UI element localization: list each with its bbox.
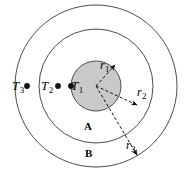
temperature-label-t3: T3 [12, 79, 24, 95]
radius-label-r1: r1 [100, 59, 110, 74]
concentric-circles-diagram: T3 T2 T1 r1 r2 r3 A B [0, 0, 189, 178]
radius-label-r2: r2 [137, 86, 147, 101]
radius-label-r3: r3 [126, 139, 136, 154]
temperature-label-t1: T1 [71, 79, 83, 95]
temperature-label-t2: T2 [41, 79, 53, 95]
region-label-b: B [85, 148, 92, 159]
temperature-dot-t2 [55, 83, 61, 89]
temperature-dot-t3 [24, 83, 30, 89]
diagram-canvas [0, 0, 189, 178]
region-label-a: A [84, 121, 92, 132]
